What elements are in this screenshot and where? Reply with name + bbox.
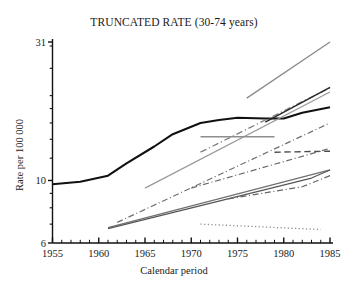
series-line-5 [265, 87, 330, 122]
series-layer [53, 42, 331, 229]
x-tick-label: 1965 [135, 248, 156, 259]
series-line-8 [275, 151, 331, 152]
series-line-1 [53, 107, 331, 184]
y-tick-label: 10 [36, 175, 47, 186]
series-line-4 [145, 92, 330, 188]
series-line-2 [247, 42, 330, 98]
plot-area: 311061955196019651970197519801985 [0, 0, 348, 290]
x-tick-label: 1980 [273, 248, 294, 259]
x-tick-label: 1975 [227, 248, 248, 259]
x-tick-label: 1960 [88, 248, 109, 259]
series-line-9 [191, 148, 330, 188]
x-axis-label: Calendar period [0, 265, 348, 276]
series-line-10 [108, 170, 330, 228]
series-line-7 [117, 123, 330, 222]
series-line-13 [201, 224, 321, 229]
y-tick-label: 31 [36, 37, 47, 48]
x-tick-label: 1985 [320, 248, 341, 259]
x-tick-label: 1970 [181, 248, 202, 259]
x-tick-label: 1955 [42, 248, 63, 259]
chart-container: TRUNCATED RATE (30-74 years) Rate per 10… [0, 0, 348, 290]
tick-label-layer: 311061955196019651970197519801985 [36, 37, 341, 259]
